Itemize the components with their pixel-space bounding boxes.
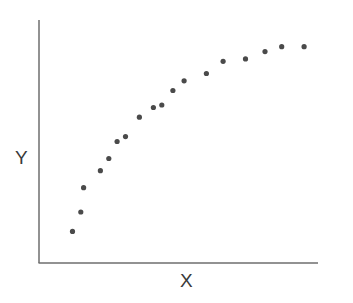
data-point (279, 44, 284, 49)
data-points (70, 44, 307, 234)
data-point (98, 168, 103, 173)
data-point (204, 71, 209, 76)
data-point (70, 229, 75, 234)
data-point (151, 105, 156, 110)
data-point (243, 56, 248, 61)
data-point (137, 115, 142, 120)
data-point (262, 49, 267, 54)
data-point (106, 156, 111, 161)
data-point (78, 209, 83, 214)
data-point (159, 102, 164, 107)
data-point (221, 59, 226, 64)
data-point (115, 139, 120, 144)
y-axis-label: Y (15, 147, 28, 169)
data-point (302, 44, 307, 49)
data-point (81, 185, 86, 190)
scatter-plot (0, 0, 353, 303)
x-axis-label: X (180, 270, 193, 292)
data-point (123, 134, 128, 139)
data-point (170, 88, 175, 93)
data-point (182, 78, 187, 83)
